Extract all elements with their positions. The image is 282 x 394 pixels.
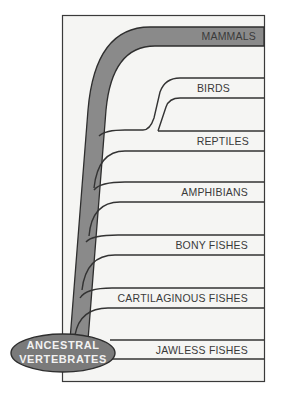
- label-birds: BIRDS: [197, 82, 230, 94]
- phylogeny-diagram: ANCESTRAL VERTEBRATES MAMMALS BIRDS REPT…: [0, 0, 282, 394]
- label-jawless-fishes: JAWLESS FISHES: [156, 344, 248, 356]
- label-reptiles: REPTILES: [197, 135, 249, 147]
- label-amphibians: AMPHIBIANS: [181, 186, 248, 198]
- root-label-line2: VERTEBRATES: [19, 353, 107, 365]
- root-label-line1: ANCESTRAL: [26, 339, 99, 351]
- label-mammals: MAMMALS: [202, 30, 257, 42]
- label-cartilaginous-fishes: CARTILAGINOUS FISHES: [118, 292, 248, 304]
- label-bony-fishes: BONY FISHES: [175, 239, 248, 251]
